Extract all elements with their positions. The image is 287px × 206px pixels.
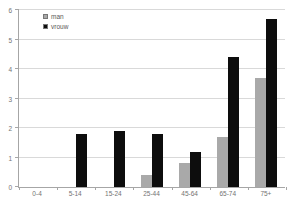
bar-man (141, 175, 152, 187)
bar-group (247, 10, 285, 187)
x-axis-labels: 0-45-1415-2425-4445-6465-7475+ (18, 190, 285, 197)
x-category-label: 65-74 (209, 190, 247, 197)
bar-group (57, 10, 95, 187)
y-tick-label: 3 (8, 96, 12, 103)
legend-label: man (51, 13, 64, 20)
y-tick-label: 1 (8, 155, 12, 162)
y-axis-labels: 0123456 (0, 10, 14, 188)
y-tick-label: 5 (8, 37, 12, 44)
bar-vrouw (228, 57, 239, 187)
bars-layer (19, 10, 285, 187)
x-category-label: 25-44 (132, 190, 170, 197)
legend-item-vrouw: vrouw (43, 21, 68, 31)
bar-group (95, 10, 133, 187)
bar-man (179, 163, 190, 187)
plot-area (18, 10, 285, 188)
legend-label: vrouw (51, 23, 68, 30)
legend-marker-vrouw-icon (43, 24, 48, 29)
bar-vrouw (114, 131, 125, 187)
y-tick-label: 4 (8, 66, 12, 73)
bar-man (217, 137, 228, 187)
y-tick-label: 6 (8, 7, 12, 14)
bar-group (209, 10, 247, 187)
x-category-label: 5-14 (56, 190, 94, 197)
x-category-label: 45-64 (171, 190, 209, 197)
y-tick-label: 0 (8, 184, 12, 191)
bar-chart: 0123456 0-45-1415-2425-4445-6465-7475+ m… (0, 0, 287, 206)
x-category-label: 75+ (247, 190, 285, 197)
bar-group (19, 10, 57, 187)
bar-man (255, 78, 266, 187)
legend-item-man: man (43, 11, 68, 21)
y-tick-label: 2 (8, 125, 12, 132)
bar-vrouw (152, 134, 163, 187)
x-category-label: 15-24 (94, 190, 132, 197)
x-category-label: 0-4 (18, 190, 56, 197)
bar-vrouw (76, 134, 87, 187)
legend: manvrouw (43, 11, 68, 31)
bar-vrouw (266, 19, 277, 187)
x-tick (286, 187, 287, 190)
legend-marker-man-icon (43, 14, 48, 19)
bar-group (171, 10, 209, 187)
bar-group (133, 10, 171, 187)
bar-vrouw (190, 152, 201, 187)
